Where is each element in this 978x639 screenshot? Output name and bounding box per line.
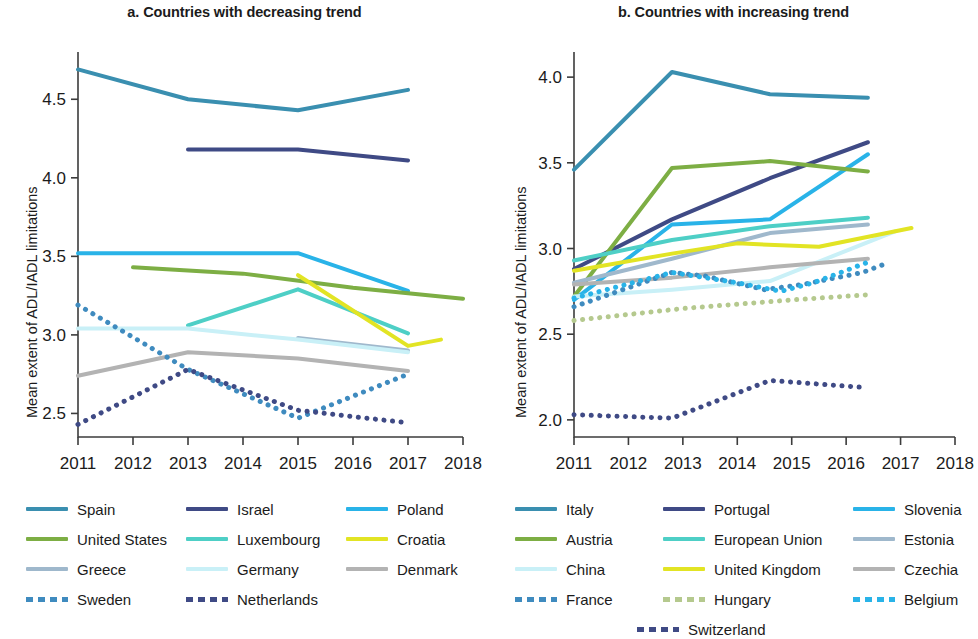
legend-swatch <box>663 567 705 571</box>
series-line <box>298 275 441 346</box>
legend-label: France <box>566 591 613 608</box>
series-line <box>78 305 408 418</box>
legend-label: Belgium <box>904 591 958 608</box>
legend-item[interactable]: Belgium <box>853 591 958 608</box>
legend-item[interactable]: Poland <box>346 501 444 518</box>
legend-label: Luxembourg <box>237 531 320 548</box>
x-tick-label: 2017 <box>389 454 427 473</box>
series-line <box>78 69 408 110</box>
y-tick-label: 4.0 <box>538 68 562 87</box>
panel-b-legend: Italy Portugal Slovenia Austria <box>515 494 978 639</box>
legend-label: Czechia <box>904 561 958 578</box>
panel-a-svg: 2.53.03.54.04.52011201220132014201520162… <box>0 0 489 489</box>
legend-item[interactable]: Estonia <box>853 531 954 548</box>
legend-swatch <box>853 567 895 571</box>
x-tick-label: 2018 <box>936 454 974 473</box>
series-line <box>78 352 408 376</box>
legend-item[interactable]: Germany <box>186 561 346 578</box>
legend-swatch <box>637 627 679 632</box>
legend-item[interactable]: Austria <box>515 531 663 548</box>
y-tick-label: 4.5 <box>42 90 66 109</box>
legend-item[interactable]: Czechia <box>853 561 958 578</box>
series-line <box>188 150 408 161</box>
legend-label: United Kingdom <box>714 561 821 578</box>
y-tick-label: 3.5 <box>538 154 562 173</box>
legend-item[interactable]: Israel <box>186 501 346 518</box>
legend-label: Denmark <box>397 561 458 578</box>
legend-swatch <box>26 567 68 571</box>
x-tick-label: 2013 <box>169 454 207 473</box>
x-tick-label: 2011 <box>556 454 593 473</box>
panel-a: a. Countries with decreasing trend Mean … <box>0 0 489 639</box>
x-tick-label: 2013 <box>664 454 702 473</box>
legend-swatch <box>853 507 895 511</box>
y-tick-label: 2.0 <box>538 411 562 430</box>
legend-label: Slovenia <box>904 501 962 518</box>
legend-item[interactable]: Greece <box>26 561 186 578</box>
legend-swatch <box>186 597 228 602</box>
legend-item[interactable]: France <box>515 591 663 608</box>
x-tick-label: 2012 <box>114 454 152 473</box>
legend-label: China <box>566 561 605 578</box>
x-tick-label: 2012 <box>610 454 648 473</box>
legend-swatch <box>346 537 388 541</box>
x-tick-label: 2017 <box>882 454 920 473</box>
legend-swatch <box>515 567 557 571</box>
legend-item[interactable]: Italy <box>515 501 663 518</box>
panel-a-plot: 2.53.03.54.04.52011201220132014201520162… <box>0 0 489 489</box>
x-tick-label: 2015 <box>773 454 811 473</box>
legend-item[interactable]: United Kingdom <box>663 561 853 578</box>
legend-item[interactable]: Hungary <box>663 591 853 608</box>
legend-swatch <box>853 597 895 602</box>
legend-row: Spain Israel Poland <box>26 494 489 524</box>
panel-b-svg: 2.02.53.03.54.02011201220132014201520162… <box>489 0 978 489</box>
y-tick-label: 3.5 <box>42 247 66 266</box>
legend-row: Switzerland <box>637 614 978 639</box>
legend-label: Croatia <box>397 531 445 548</box>
y-tick-label: 3.0 <box>538 240 562 259</box>
legend-swatch <box>26 597 68 602</box>
panel-b-plot: 2.02.53.03.54.02011201220132014201520162… <box>489 0 978 489</box>
legend-item[interactable]: Luxembourg <box>186 531 346 548</box>
panel-b: b. Countries with increasing trend Mean … <box>489 0 978 639</box>
legend-label: Hungary <box>714 591 771 608</box>
legend-item[interactable]: Slovenia <box>853 501 962 518</box>
legend-item[interactable]: Spain <box>26 501 186 518</box>
legend-swatch <box>853 537 895 541</box>
legend-label: Greece <box>77 561 126 578</box>
legend-item[interactable]: Netherlands <box>186 591 346 608</box>
legend-row: Italy Portugal Slovenia <box>515 494 978 524</box>
legend-swatch <box>663 537 705 541</box>
legend-swatch <box>663 507 705 511</box>
legend-item[interactable]: Croatia <box>346 531 445 548</box>
legend-item[interactable]: Denmark <box>346 561 458 578</box>
legend-swatch <box>515 507 557 511</box>
legend-row: United States Luxembourg Croatia <box>26 524 489 554</box>
figure-root: a. Countries with decreasing trend Mean … <box>0 0 978 639</box>
legend-item[interactable]: China <box>515 561 663 578</box>
legend-label: Sweden <box>77 591 131 608</box>
series-line <box>574 295 868 321</box>
legend-row: Greece Germany Denmark <box>26 554 489 584</box>
x-tick-label: 2018 <box>444 454 482 473</box>
x-tick-label: 2016 <box>334 454 372 473</box>
x-tick-label: 2015 <box>279 454 317 473</box>
legend-item[interactable]: United States <box>26 531 186 548</box>
legend-item[interactable]: Sweden <box>26 591 186 608</box>
series-line <box>133 267 463 298</box>
legend-item[interactable]: Switzerland <box>637 621 766 638</box>
legend-swatch <box>186 537 228 541</box>
x-tick-label: 2014 <box>718 454 756 473</box>
x-tick-label: 2016 <box>827 454 865 473</box>
legend-item[interactable]: European Union <box>663 531 853 548</box>
legend-label: Portugal <box>714 501 770 518</box>
legend-item[interactable]: Portugal <box>663 501 853 518</box>
legend-swatch <box>346 567 388 571</box>
x-tick-label: 2011 <box>60 454 97 473</box>
series-line <box>574 72 868 170</box>
y-tick-label: 3.0 <box>42 326 66 345</box>
panel-a-legend: Spain Israel Poland United States <box>26 494 489 614</box>
legend-label: Germany <box>237 561 299 578</box>
y-tick-label: 4.0 <box>42 169 66 188</box>
legend-swatch <box>26 537 68 541</box>
